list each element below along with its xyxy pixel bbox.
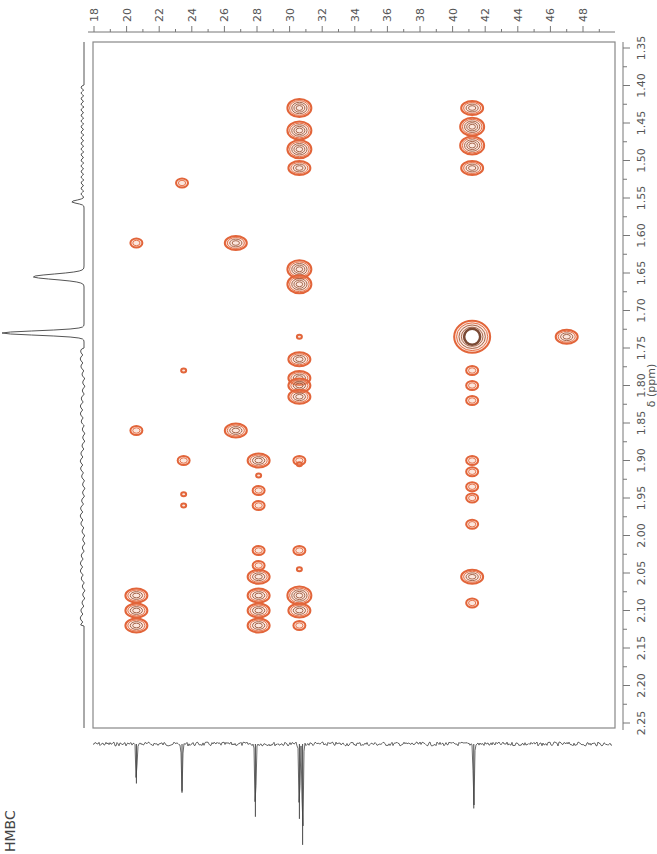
contour-ring (225, 424, 247, 438)
cross-peak (178, 456, 190, 465)
proton-tick-label: 2.10 (635, 598, 648, 623)
cross-peak (288, 352, 310, 366)
cross-peak (288, 390, 310, 404)
cross-peak (556, 330, 578, 344)
contour-ring (288, 390, 310, 404)
cross-peak (454, 321, 490, 353)
carbon-tick-label: 18 (88, 8, 101, 22)
carbon-tick-label: 22 (153, 8, 166, 22)
proton-tick-label: 1.90 (635, 448, 648, 473)
contour-ring (181, 492, 186, 496)
cross-peak (248, 454, 270, 468)
carbon-tick-label: 32 (316, 8, 329, 22)
proton-tick-label: 1.70 (635, 298, 648, 323)
cross-peak (466, 482, 478, 491)
cross-peak (287, 140, 311, 158)
contour-ring (461, 161, 483, 175)
frame-border (93, 42, 615, 728)
contour-ring (225, 236, 247, 250)
contour-ring (181, 369, 186, 373)
cross-peaks (125, 99, 577, 633)
proton-tick-label: 2.20 (635, 673, 648, 698)
cross-peak (176, 179, 188, 188)
cross-peak (125, 604, 147, 618)
proton-tick-label: 1.60 (635, 223, 648, 248)
cross-peak (125, 589, 147, 603)
proton-trace (2, 42, 85, 728)
cross-peak (287, 275, 311, 293)
cross-peak (248, 604, 270, 618)
cross-peak (293, 546, 305, 555)
carbon-tick-label: 48 (577, 8, 590, 22)
proton-tick-label: 1.55 (635, 186, 648, 211)
contour-ring (181, 504, 186, 508)
carbon-tick-label: 28 (251, 8, 264, 22)
cross-peak (461, 161, 483, 175)
experiment-label: HMBC (2, 806, 22, 852)
cross-peak (297, 462, 302, 466)
cross-peak (461, 101, 483, 115)
contour-ring (287, 99, 311, 117)
contour-ring (288, 604, 310, 618)
contour-ring (125, 619, 147, 633)
contour-ring (297, 335, 302, 339)
contour-ring (288, 161, 310, 175)
proton-tick-label: 1.50 (635, 148, 648, 173)
cross-peak (466, 381, 478, 390)
carbon-tick-label: 44 (512, 8, 525, 22)
contour-ring (248, 619, 270, 633)
cross-peak (466, 396, 478, 405)
carbon-tick-label: 20 (121, 8, 134, 22)
cross-peak (297, 335, 302, 339)
contour-ring (460, 118, 484, 136)
contour-ring (460, 137, 484, 155)
carbon-tick-label: 34 (349, 8, 362, 22)
contour-ring (248, 454, 270, 468)
contour-ring (287, 275, 311, 293)
contour-ring (461, 570, 483, 584)
cross-peak (225, 424, 247, 438)
cross-peak (253, 546, 265, 555)
contour-ring (461, 101, 483, 115)
contour-ring (556, 330, 578, 344)
carbon-tick-label: 42 (479, 8, 492, 22)
contour-ring (125, 589, 147, 603)
proton-axis: 1.351.401.451.501.551.601.651.701.751.80… (623, 36, 657, 736)
cross-peak (293, 621, 305, 630)
proton-projection (2, 42, 85, 728)
cross-peak (248, 619, 270, 633)
cross-peak (297, 567, 302, 571)
contour-ring (287, 122, 311, 140)
contour-ring (288, 352, 310, 366)
carbon-tick-label: 38 (414, 8, 427, 22)
carbon-trace (93, 742, 612, 826)
contour-ring (256, 474, 261, 478)
cross-peak (466, 520, 478, 529)
cross-peak (287, 99, 311, 117)
cross-peak (466, 366, 478, 375)
proton-tick-label: 2.05 (635, 561, 648, 586)
cross-peak (466, 494, 478, 503)
contour-ring (125, 604, 147, 618)
cross-peak (466, 456, 478, 465)
cross-peak (460, 118, 484, 136)
proton-tick-label: 1.45 (635, 111, 648, 136)
cross-peak (287, 587, 311, 605)
cross-peak (288, 604, 310, 618)
cross-peak (460, 137, 484, 155)
proton-tick-label: 1.40 (635, 73, 648, 98)
contour-ring (248, 604, 270, 618)
cross-peak (225, 236, 247, 250)
proton-tick-label: 1.95 (635, 486, 648, 511)
hmbc-plot: 18202224262830323436384042444648 1.351.4… (0, 0, 657, 854)
cross-peak (181, 504, 186, 508)
contour-ring (297, 567, 302, 571)
cross-peak (130, 426, 142, 435)
proton-tick-label: 1.85 (635, 411, 648, 436)
carbon-tick-label: 46 (544, 8, 557, 22)
cross-peak (248, 570, 270, 584)
cross-peak (253, 561, 265, 570)
cross-peak (248, 589, 270, 603)
carbon-tick-label: 36 (381, 8, 394, 22)
contour-ring (287, 140, 311, 158)
